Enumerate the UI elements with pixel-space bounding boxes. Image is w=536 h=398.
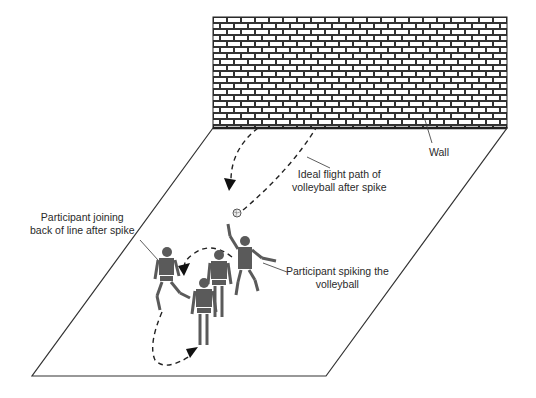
brick-wall (213, 17, 507, 128)
participant-joining-figure (155, 247, 190, 310)
spiking-label: Participant spiking the volleyball (286, 265, 389, 291)
wall-label-text: Wall (429, 146, 449, 158)
joining-label-line2: back of line after spike (30, 224, 134, 237)
spiking-label-line2: volleyball (286, 278, 389, 291)
spiking-leader-line (263, 263, 287, 272)
wall-label: Wall (429, 146, 449, 159)
court-floor (32, 128, 507, 376)
participant-waiting-figure-front (192, 278, 216, 345)
arrowhead-icon (224, 178, 236, 191)
joining-leader-line (140, 240, 158, 260)
flight-path-label-line1: Ideal flight path of (292, 168, 387, 181)
flight-path-label: Ideal flight path of volleyball after sp… (292, 168, 387, 194)
spiking-label-line1: Participant spiking the (286, 265, 389, 278)
flight-path-leader-line (307, 157, 330, 168)
participant-spiking-figure (228, 224, 276, 295)
flight-path-label-line2: volleyball after spike (292, 181, 387, 194)
volleyball-drill-diagram (0, 0, 536, 398)
joining-label-line1: Participant joining (30, 211, 134, 224)
joining-label: Participant joining back of line after s… (30, 211, 134, 237)
volleyball-icon (233, 209, 241, 217)
